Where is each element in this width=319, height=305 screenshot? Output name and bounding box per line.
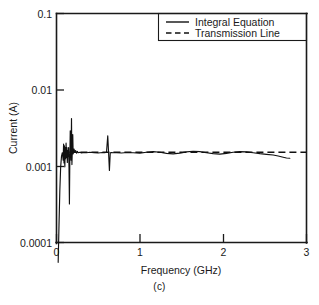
chart-canvas: 0.1 0.01 0.001 0.0001 0 1 2 3 Frequency … [0,0,319,281]
x-axis-ticklabels: 0 1 2 3 [54,246,310,258]
series-integral-equation [58,119,290,263]
x-axis-title: Frequency (GHz) [141,264,222,276]
x-axis-ticks [57,234,307,243]
x-ticklabel-1: 1 [137,246,143,258]
legend: Integral Equation Transmission Line [159,14,307,41]
figure-panel: 0.1 0.01 0.001 0.0001 0 1 2 3 Frequency … [0,0,319,305]
y-ticklabel-1: 0.01 [32,84,53,96]
y-ticklabel-2: 0.001 [26,161,52,173]
y-ticklabel-3: 0.0001 [20,237,52,249]
x-ticklabel-3: 3 [304,246,310,258]
y-axis-title: Current (A) [7,102,19,154]
figure-caption: (c) [0,281,319,292]
y-axis-ticklabels: 0.1 0.01 0.001 0.0001 [20,8,52,249]
legend-label-1: Transmission Line [195,27,280,39]
axes-frame [56,14,307,244]
x-ticklabel-2: 2 [221,246,227,258]
y-axis-ticks [57,14,65,243]
y-ticklabel-0: 0.1 [37,8,52,20]
series-group [58,119,306,263]
